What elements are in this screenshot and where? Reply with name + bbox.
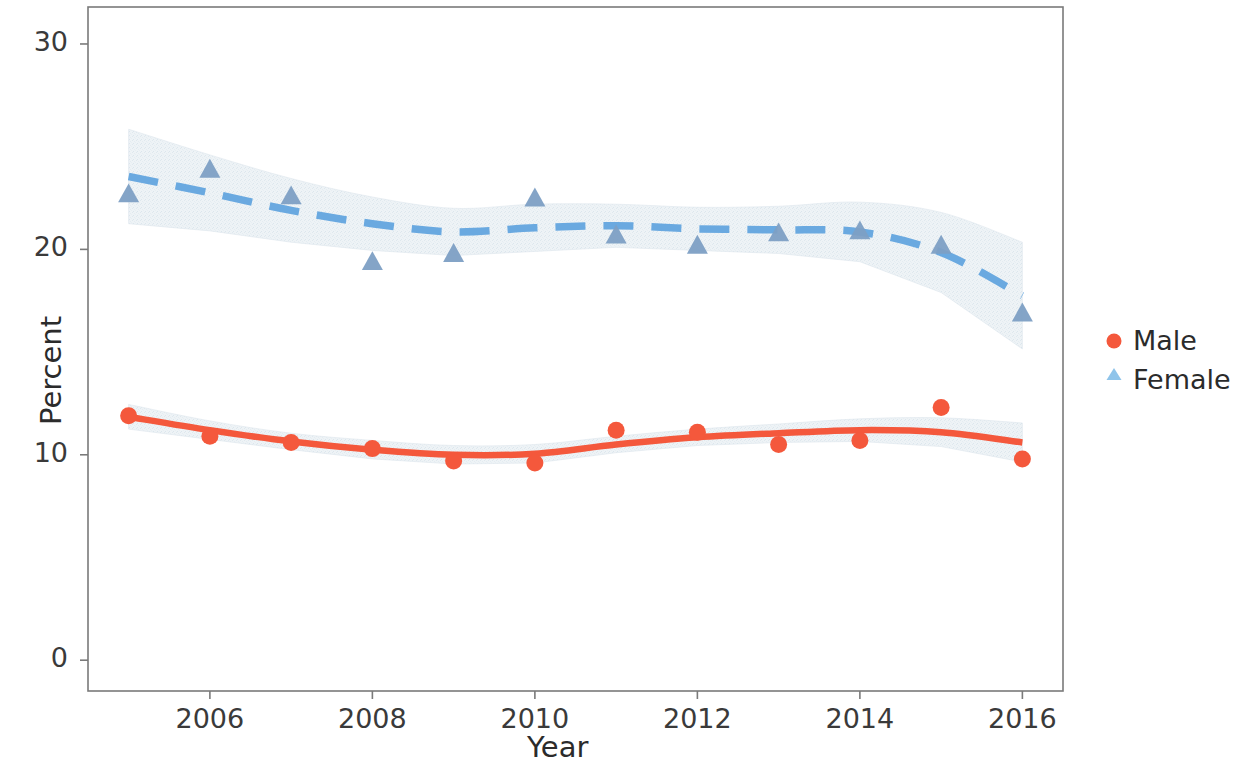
x-axis-title: Year [527, 730, 588, 764]
x-axis-ticks [210, 691, 1023, 699]
y-axis-title: Percent [34, 316, 68, 425]
x-tick-label-2006: 2006 [150, 703, 270, 734]
confidence-band-male [129, 404, 1023, 464]
legend-label-male: Male [1133, 325, 1197, 356]
data-point-male-2011 [608, 422, 625, 439]
confidence-band-female [129, 129, 1023, 349]
data-point-male-2006 [201, 428, 218, 445]
data-point-male-2005 [120, 407, 137, 424]
chart-figure: Percent Year 0102030 2006200820102012201… [0, 0, 1249, 764]
x-tick-label-2016: 2016 [962, 703, 1082, 734]
data-point-male-2013 [770, 436, 787, 453]
data-point-male-2012 [689, 424, 706, 441]
y-tick-label-0: 0 [4, 642, 68, 673]
x-tick-label-2014: 2014 [800, 703, 920, 734]
data-point-male-2015 [933, 399, 950, 416]
data-point-male-2007 [283, 434, 300, 451]
x-tick-label-2012: 2012 [637, 703, 757, 734]
data-point-male-2008 [364, 440, 381, 457]
data-point-female-2010 [524, 188, 545, 207]
data-point-male-2009 [445, 452, 462, 469]
data-point-female-2008 [362, 251, 383, 270]
data-point-male-2016 [1014, 450, 1031, 467]
chart-canvas [0, 0, 1249, 764]
y-axis-ticks [80, 44, 88, 660]
y-tick-label-10: 10 [4, 437, 68, 468]
x-tick-label-2008: 2008 [312, 703, 432, 734]
legend-label-female: Female [1133, 364, 1231, 395]
legend-marker-female [1107, 368, 1122, 380]
legend-marker-male [1107, 334, 1122, 349]
data-point-male-2010 [526, 455, 543, 472]
plot-frame [88, 7, 1063, 691]
x-tick-label-2010: 2010 [475, 703, 595, 734]
data-point-male-2014 [851, 432, 868, 449]
y-tick-label-30: 30 [4, 26, 68, 57]
confidence-bands [129, 129, 1023, 464]
y-tick-label-20: 20 [4, 231, 68, 262]
